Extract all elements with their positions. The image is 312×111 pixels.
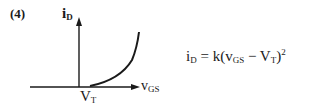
y-axis-arrow-icon	[76, 17, 82, 26]
eq-exponent: 2	[281, 47, 286, 57]
eq-term1-var: v	[225, 48, 233, 64]
threshold-label: VT	[80, 88, 96, 105]
x-axis-arrow-icon	[131, 84, 140, 90]
eq-term1-sub: GS	[233, 55, 245, 65]
x-axis-label: vGS	[141, 78, 160, 94]
square-law-equation: iD = k(vGS − VT)2	[186, 47, 286, 65]
eq-minus: −	[244, 48, 260, 64]
threshold-var: V	[80, 88, 91, 104]
eq-equals: = k(	[197, 48, 225, 64]
x-axis-sub: GS	[148, 84, 160, 94]
x-axis-var: v	[141, 78, 148, 93]
square-law-curve	[90, 32, 139, 86]
threshold-sub: T	[91, 95, 97, 105]
eq-term2-var: V	[260, 48, 271, 64]
